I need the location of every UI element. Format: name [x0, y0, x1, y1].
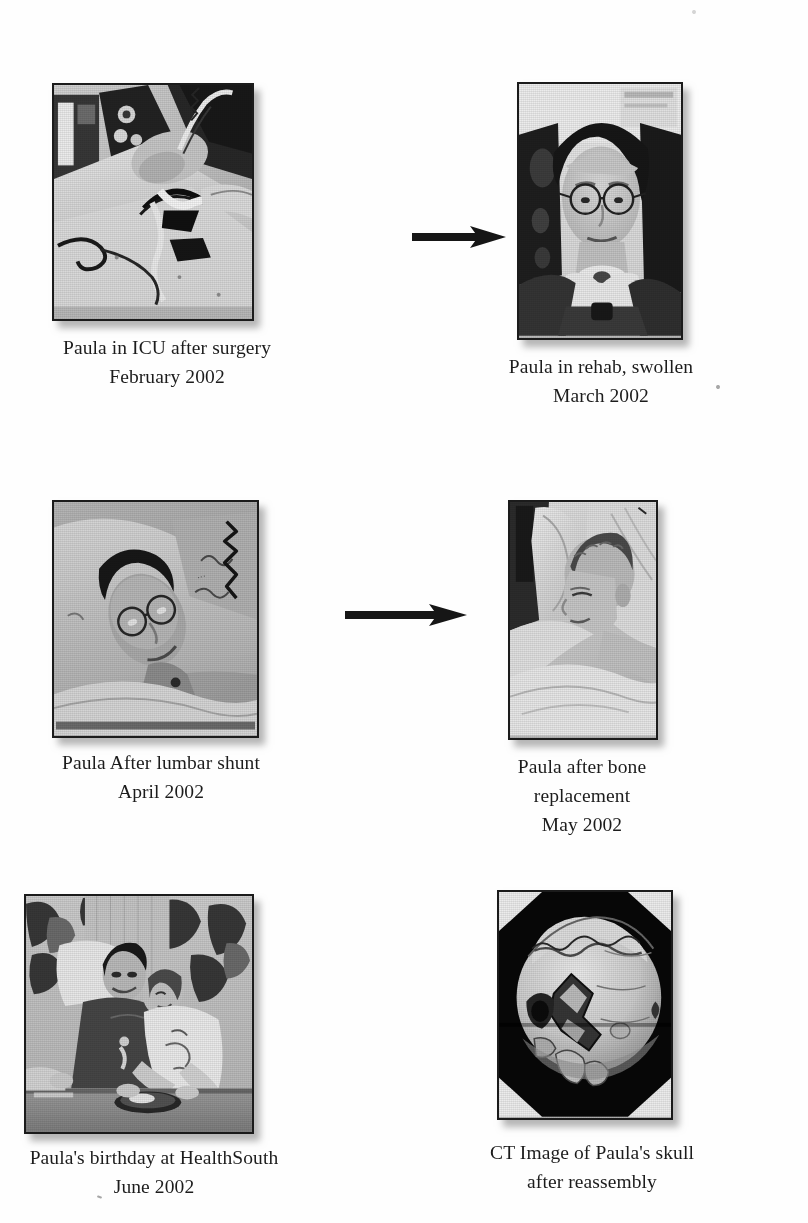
birthday-photo-content	[26, 896, 252, 1132]
bone-photo-content	[510, 502, 656, 736]
caption-line: CT Image of Paula's skull	[486, 1138, 698, 1167]
arrow-icu-to-rehab	[412, 224, 508, 250]
document-page: Paula in ICU after surgery February 2002	[0, 0, 808, 1223]
caption-line: May 2002	[482, 810, 682, 839]
photo-paula-lumbar-shunt: ...	[52, 500, 259, 738]
caption-paula-bone-replacement: Paula after bone replacement May 2002	[482, 752, 682, 839]
caption-paula-rehab: Paula in rehab, swollen March 2002	[502, 352, 700, 410]
photo-paula-rehab	[517, 82, 683, 340]
caption-paula-birthday: Paula's birthday at HealthSouth June 200…	[20, 1143, 288, 1201]
caption-paula-icu: Paula in ICU after surgery February 2002	[52, 333, 282, 391]
caption-line: Paula's birthday at HealthSouth	[20, 1143, 288, 1172]
caption-line: replacement	[482, 781, 682, 810]
caption-line: March 2002	[502, 381, 700, 410]
scan-speck-right	[715, 384, 720, 389]
arrow-lumbar-to-bone	[345, 602, 469, 628]
caption-paula-lumbar-shunt: Paula After lumbar shunt April 2002	[46, 748, 276, 806]
caption-line: Paula in ICU after surgery	[52, 333, 282, 362]
ct-photo-content	[499, 892, 671, 1117]
photo-paula-icu	[52, 83, 254, 321]
caption-line: April 2002	[46, 777, 276, 806]
scan-speck-upper-right	[691, 9, 696, 14]
icu-photo-content	[54, 85, 252, 318]
photo-ct-skull	[497, 890, 673, 1120]
caption-ct-skull: CT Image of Paula's skull after reassemb…	[486, 1138, 698, 1196]
photo-paula-bone-replacement	[508, 500, 658, 740]
caption-line: June 2002	[20, 1172, 288, 1201]
caption-line: after reassembly	[486, 1167, 698, 1196]
caption-line: Paula After lumbar shunt	[46, 748, 276, 777]
lumbar-photo-content: ...	[54, 502, 257, 735]
rehab-photo-content	[519, 84, 681, 336]
photo-paula-birthday	[24, 894, 254, 1134]
caption-line: Paula in rehab, swollen	[502, 352, 700, 381]
caption-line: Paula after bone	[482, 752, 682, 781]
caption-line: February 2002	[52, 362, 282, 391]
